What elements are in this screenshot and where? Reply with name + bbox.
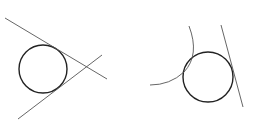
left-tangent-line-upper xyxy=(5,18,107,79)
figure-left xyxy=(5,18,107,119)
figure-right xyxy=(150,25,243,107)
right-tangent-arc xyxy=(150,26,193,85)
left-circle xyxy=(19,45,67,93)
left-tangent-line-lower xyxy=(18,55,102,119)
right-tangent-line xyxy=(221,25,243,107)
right-circle xyxy=(183,52,233,102)
geometry-diagram xyxy=(0,0,254,130)
